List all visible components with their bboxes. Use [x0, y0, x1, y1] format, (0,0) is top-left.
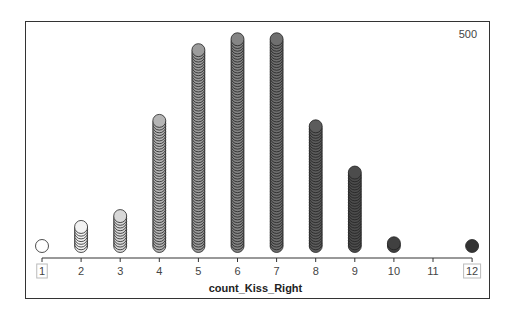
- data-point: [270, 33, 283, 46]
- x-tick-label: 11: [427, 265, 438, 277]
- x-tick-label: 5: [195, 265, 201, 277]
- dot-stack-1: [36, 240, 49, 253]
- dot-stack-5: [192, 44, 205, 253]
- dot-stack-12: [466, 240, 479, 253]
- data-point: [348, 166, 361, 179]
- x-tick-label: 7: [274, 265, 280, 277]
- x-tick-label: 8: [313, 265, 319, 277]
- x-tick-label: 10: [388, 265, 400, 277]
- x-tick-label: 12: [466, 265, 478, 277]
- x-tick-label: 6: [234, 265, 240, 277]
- dot-stack-9: [348, 166, 361, 252]
- x-tick-label: 2: [78, 265, 84, 277]
- x-tick-label: 1: [39, 265, 45, 277]
- dot-stack-6: [231, 33, 244, 253]
- data-point: [192, 44, 205, 57]
- x-tick-label: 3: [117, 265, 123, 277]
- data-point: [387, 237, 400, 250]
- x-tick-label: 9: [352, 265, 358, 277]
- data-point: [153, 114, 166, 127]
- dot-stack-4: [153, 114, 166, 252]
- data-point: [75, 220, 88, 233]
- x-axis-title: count_Kiss_Right: [0, 282, 511, 294]
- data-point: [309, 120, 322, 133]
- x-tick-label: 4: [156, 265, 162, 277]
- dot-stack-2: [75, 220, 88, 252]
- data-point: [114, 210, 127, 223]
- data-point: [36, 240, 49, 253]
- dot-stack-8: [309, 120, 322, 253]
- dot-plot: 123456789101112: [0, 0, 511, 315]
- dot-stack-10: [387, 237, 400, 253]
- data-point: [466, 240, 479, 253]
- data-point: [231, 33, 244, 46]
- dot-stack-7: [270, 33, 283, 253]
- dot-stack-3: [114, 210, 127, 253]
